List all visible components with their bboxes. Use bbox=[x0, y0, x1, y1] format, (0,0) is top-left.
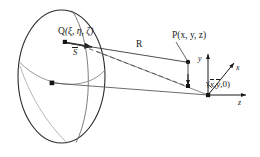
source-point-label: Q(ξ, η, ζ) bbox=[58, 27, 93, 37]
source-vector-label: S bbox=[73, 48, 77, 57]
field-point-coords: (x, y, z) bbox=[177, 30, 206, 40]
figure-container: Q(ξ, η, ζ) S R P(x, y, z) y x z (x,y,0) bbox=[0, 0, 260, 157]
field-point-leader-line bbox=[176, 42, 187, 60]
axis-x-label: x bbox=[236, 64, 240, 72]
horizon-line bbox=[52, 83, 208, 95]
axis-z-label: z bbox=[238, 99, 241, 107]
source-point-name: Q bbox=[58, 26, 65, 36]
source-vector-symbol: S bbox=[73, 48, 77, 57]
source-point-coords: (ξ, η, ζ) bbox=[65, 26, 93, 36]
distance-R-line bbox=[67, 43, 186, 62]
ground-x-bar: x bbox=[210, 80, 214, 89]
sphere-equator-arc bbox=[20, 62, 106, 84]
ground-point-label: (x,y,0) bbox=[207, 80, 230, 89]
origin-dot bbox=[206, 93, 210, 97]
distance-label: R bbox=[136, 40, 142, 50]
sphere-lower-arc bbox=[20, 66, 66, 142]
sphere-center-dot bbox=[50, 81, 55, 86]
axis-y-label: y bbox=[198, 55, 202, 63]
ground-paren-close: ) bbox=[227, 79, 230, 89]
ground-y-bar: y bbox=[216, 80, 220, 89]
source-point-Q-dot bbox=[63, 40, 67, 44]
field-point-label: P(x, y, z) bbox=[172, 31, 206, 41]
